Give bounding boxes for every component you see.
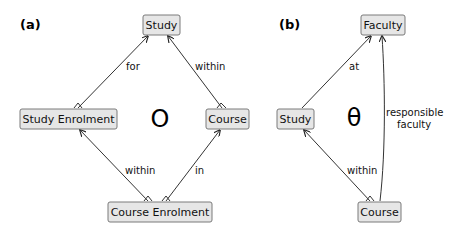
edge-study-to-faculty: [302, 36, 371, 108]
constraint-symbol-theta: θ: [347, 104, 362, 132]
node-faculty: Faculty: [361, 15, 405, 35]
edge-label-at: at: [349, 61, 359, 72]
svg-text:Course: Course: [208, 113, 247, 126]
panel-a: (a) for within within in Study Stu: [20, 15, 249, 222]
svg-text:Study Enrolment: Study Enrolment: [22, 113, 115, 126]
panel-b-label: (b): [279, 17, 300, 32]
edge-label-within: within: [347, 165, 377, 176]
svg-text:Faculty: Faculty: [364, 19, 403, 32]
node-study: Study: [277, 109, 314, 129]
node-study: Study: [143, 15, 180, 35]
constraint-symbol-o: O: [151, 105, 170, 133]
edge-course-to-study: [168, 36, 226, 108]
edge-label-within: within: [125, 165, 155, 176]
diagram-canvas: (a) for within within in Study Stu: [0, 0, 457, 233]
edge-label-for: for: [126, 61, 141, 72]
edge-label-within: within: [195, 61, 225, 72]
node-course: Course: [206, 109, 249, 129]
edge-label-faculty: faculty: [397, 119, 431, 130]
svg-text:Study: Study: [146, 19, 178, 32]
edge-course-enrolment-to-course: [162, 130, 220, 201]
panel-a-label: (a): [20, 17, 41, 32]
edge-label-responsible: responsible: [386, 107, 443, 118]
panel-b: (b) at responsible faculty within Facult…: [277, 15, 443, 222]
svg-text:Course: Course: [360, 206, 399, 219]
node-study-enrolment: Study Enrolment: [20, 109, 117, 129]
edge-course-to-faculty: [380, 36, 384, 201]
edge-study-enrolment-to-study: [74, 36, 148, 108]
node-course-enrolment: Course Enrolment: [108, 202, 212, 222]
edge-label-in: in: [195, 165, 204, 176]
node-course: Course: [358, 202, 401, 222]
svg-text:Course Enrolment: Course Enrolment: [111, 206, 210, 219]
svg-text:Study: Study: [280, 113, 312, 126]
